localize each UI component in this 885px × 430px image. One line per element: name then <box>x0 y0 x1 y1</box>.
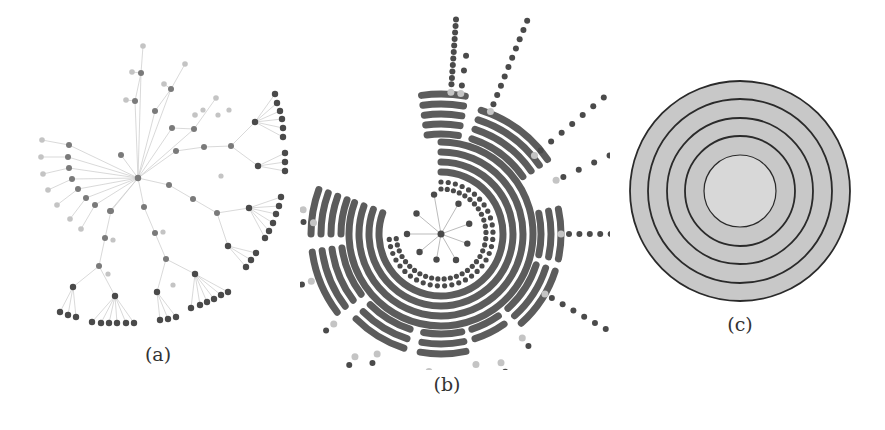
radial-band-tree-diagram <box>300 0 610 370</box>
tree-node <box>474 259 479 264</box>
tree-node <box>197 302 203 308</box>
tree-node <box>228 143 234 149</box>
tree-node <box>201 144 207 150</box>
tree-node <box>566 231 572 237</box>
tree-node <box>407 264 412 269</box>
tree-node <box>102 235 108 241</box>
tree-node <box>190 196 196 202</box>
tree-node <box>519 335 526 342</box>
tree-node <box>433 256 439 262</box>
tree-node <box>462 193 467 198</box>
arc-band <box>420 351 466 354</box>
tree-node <box>70 284 76 290</box>
tree-node <box>67 216 73 222</box>
tree-node <box>397 263 402 268</box>
tree-node <box>483 257 488 262</box>
tree-node <box>272 91 278 97</box>
tree-node <box>487 108 494 115</box>
tree-node <box>483 230 488 235</box>
tree-node <box>215 112 220 117</box>
tree-node <box>393 257 398 262</box>
tree-node <box>282 150 288 156</box>
arc-band <box>331 196 338 234</box>
tree-node <box>413 210 419 216</box>
tree-node <box>45 187 51 193</box>
tree-node <box>472 361 479 368</box>
tree-node <box>161 81 167 87</box>
tree-node <box>131 320 137 326</box>
tree-node <box>482 202 487 207</box>
tree-node <box>57 309 63 315</box>
tree-node <box>394 236 399 241</box>
tree-node <box>154 289 160 295</box>
tree-node <box>123 320 129 326</box>
tree-node <box>374 351 381 358</box>
tree-node <box>280 125 286 131</box>
tree-node <box>192 112 198 118</box>
tree-node <box>114 320 120 326</box>
tree-node <box>65 154 71 160</box>
tree-node <box>204 299 210 305</box>
tree-node <box>438 179 443 184</box>
tree-node <box>466 221 472 227</box>
tree-node <box>92 202 98 208</box>
tree-node <box>173 148 179 154</box>
tree-node <box>465 268 470 273</box>
tree-node <box>279 116 285 122</box>
tree-node <box>412 268 417 273</box>
tree-node <box>449 282 454 287</box>
tree-node <box>157 317 163 323</box>
tree-node <box>78 226 84 232</box>
arc-band <box>424 114 462 116</box>
tree-node <box>280 134 286 140</box>
tree-node <box>442 276 447 281</box>
tree-node <box>421 280 426 285</box>
tree-node <box>479 263 484 268</box>
tree-node <box>485 209 490 214</box>
tree-node <box>255 163 261 169</box>
panel-b: (b) <box>300 0 610 420</box>
tree-node <box>276 203 282 209</box>
tree-node <box>168 86 174 92</box>
tree-node <box>253 250 259 256</box>
tree-node <box>173 314 179 320</box>
tree-node <box>66 142 72 148</box>
tree-node <box>448 275 453 280</box>
tree-node <box>89 319 95 325</box>
tree-node <box>390 251 395 256</box>
tree-node <box>428 282 433 287</box>
arc-band <box>427 134 458 136</box>
tree-node <box>576 231 582 237</box>
tree-node <box>580 112 586 118</box>
tree-node <box>541 291 548 298</box>
tree-node <box>308 278 315 285</box>
tree-node <box>112 293 118 299</box>
tree-node <box>590 103 596 109</box>
tree-node <box>98 320 104 326</box>
tree-node <box>490 222 495 227</box>
tree-node <box>266 228 272 234</box>
arc-band <box>311 190 319 234</box>
tree-node <box>170 282 175 287</box>
tree-node <box>431 191 437 197</box>
tree-node <box>83 195 89 201</box>
tree-node <box>192 271 198 277</box>
tree-node <box>453 17 459 23</box>
tree-node <box>538 147 544 153</box>
radial-tree-diagram <box>0 0 300 340</box>
tree-node <box>460 271 465 276</box>
tree-node <box>560 301 566 307</box>
tree-node <box>38 154 44 160</box>
tree-node <box>132 98 138 104</box>
tree-node <box>560 174 566 180</box>
tree-node <box>152 230 158 236</box>
tree-node <box>509 55 515 61</box>
tree-node <box>435 283 440 288</box>
tree-node <box>592 320 598 326</box>
tree-node <box>502 73 508 79</box>
tree-node <box>451 49 457 55</box>
tree-node <box>569 121 575 127</box>
tree-node <box>559 130 565 136</box>
tree-node <box>399 254 404 259</box>
tree-node <box>73 314 79 320</box>
